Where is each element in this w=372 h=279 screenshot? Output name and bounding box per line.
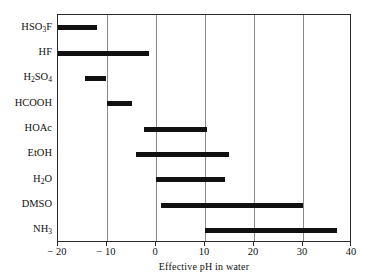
bar-hcooh bbox=[107, 101, 132, 106]
bar-hf bbox=[58, 51, 149, 56]
tick-label-30: 30 bbox=[297, 246, 308, 258]
y-label-etoh: EtOH bbox=[28, 147, 53, 158]
ph-range-chart: HSO3FHFH2SO4HCOOHHOAcEtOHH2ODMSONH3 − 20… bbox=[0, 0, 372, 279]
tick-label-0: 0 bbox=[152, 246, 157, 258]
bar-h2o bbox=[156, 177, 225, 182]
bar-hoac bbox=[144, 127, 208, 132]
y-label-hoac: HOAc bbox=[25, 122, 52, 133]
y-label-nh3: NH3 bbox=[33, 223, 52, 237]
x-axis-title: Effective pH in water bbox=[57, 261, 351, 273]
tick-label-20: 20 bbox=[248, 246, 259, 258]
bar-dmso bbox=[161, 203, 303, 208]
y-label-hf: HF bbox=[39, 46, 52, 57]
bar-nh3 bbox=[205, 228, 337, 233]
tick-label-10: 10 bbox=[199, 246, 210, 258]
tick-label-40: 40 bbox=[346, 246, 357, 258]
tick-label-neg20: − 20 bbox=[47, 246, 66, 258]
y-label-hcooh: HCOOH bbox=[15, 97, 52, 108]
y-label-dmso: DMSO bbox=[22, 198, 52, 209]
y-label-h2o: H2O bbox=[33, 173, 52, 187]
gridline-30 bbox=[303, 15, 304, 241]
bar-hso3f bbox=[58, 25, 97, 30]
y-label-h2so4: H2SO4 bbox=[23, 71, 52, 85]
gridline-neg10 bbox=[107, 15, 108, 241]
y-axis-category-labels: HSO3FHFH2SO4HCOOHHOAcEtOHH2ODMSONH3 bbox=[0, 14, 52, 242]
x-axis-tick-labels: − 20− 10010203040 bbox=[57, 246, 351, 260]
y-label-hso3f: HSO3F bbox=[21, 21, 52, 35]
bar-h2so4 bbox=[85, 76, 106, 81]
bar-etoh bbox=[136, 152, 229, 157]
tick-label-neg10: − 10 bbox=[96, 246, 115, 258]
plot-area bbox=[57, 14, 351, 242]
